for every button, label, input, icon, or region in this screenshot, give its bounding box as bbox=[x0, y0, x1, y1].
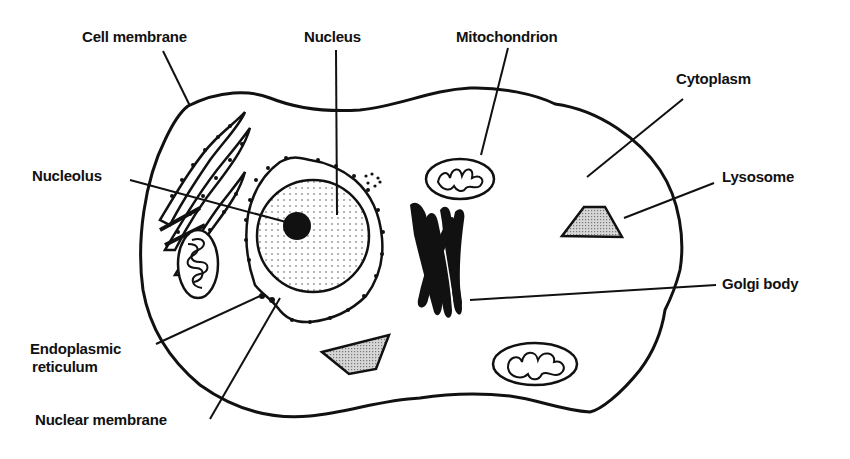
leader-cell-membrane bbox=[163, 51, 190, 106]
lysosome-right bbox=[562, 207, 622, 237]
leader-nucleus bbox=[336, 50, 337, 215]
label-cell-membrane: Cell membrane bbox=[82, 29, 187, 45]
label-mitochondrion: Mitochondrion bbox=[456, 29, 558, 45]
label-lysosome: Lysosome bbox=[722, 169, 794, 185]
cell-illustration bbox=[0, 0, 850, 459]
leader-nuclear-membrane bbox=[210, 298, 280, 419]
label-endoplasmic-reticulum-line1: Endoplasmic bbox=[30, 341, 121, 357]
label-nuclear-membrane: Nuclear membrane bbox=[35, 412, 167, 428]
nucleolus bbox=[283, 212, 311, 240]
leader-nucleolus bbox=[130, 180, 286, 222]
leader-mitochondrion bbox=[481, 48, 508, 155]
mitochondrion-top bbox=[426, 159, 494, 199]
label-golgi-body: Golgi body bbox=[722, 276, 798, 292]
leader-endoplasmic-reticulum bbox=[156, 296, 260, 344]
nucleus bbox=[257, 180, 369, 292]
label-nucleolus: Nucleolus bbox=[32, 168, 102, 184]
cell-diagram: Cell membrane Nucleus Mitochondrion Cyto… bbox=[0, 0, 850, 459]
lysosome-bottom bbox=[322, 335, 389, 374]
label-cytoplasm: Cytoplasm bbox=[676, 71, 751, 87]
label-endoplasmic-reticulum-line2: reticulum bbox=[32, 359, 98, 375]
cell-membrane bbox=[141, 88, 682, 417]
mitochondrion-left bbox=[178, 230, 218, 298]
vesicles bbox=[364, 172, 381, 187]
leader-cytoplasm bbox=[587, 99, 683, 177]
mitochondrion-bottom bbox=[493, 343, 577, 385]
leader-golgi-body bbox=[470, 285, 716, 300]
label-nucleus: Nucleus bbox=[304, 29, 361, 45]
golgi-body bbox=[410, 203, 464, 318]
